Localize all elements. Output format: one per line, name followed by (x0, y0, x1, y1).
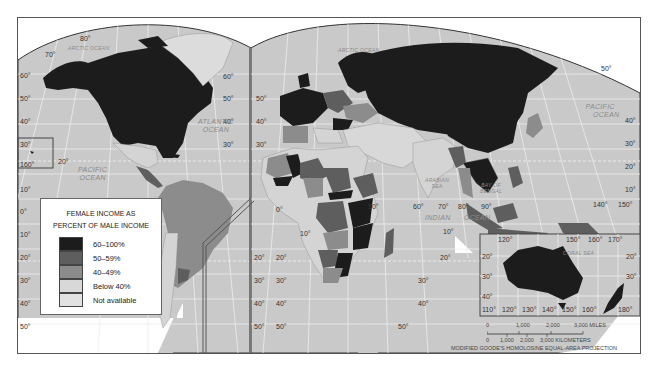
lat-label: 50° (20, 95, 31, 102)
pacific-ocean-label-left: PACIFIC OCEAN (78, 166, 107, 182)
legend-item-below-40: Below 40% (59, 279, 131, 293)
lat-label: 10° (443, 228, 454, 235)
lat-label: 10° (20, 186, 31, 193)
lat-label: 80° (80, 35, 91, 42)
inset-lon-label: 180° (618, 306, 632, 313)
lat-label: 50° (398, 323, 409, 330)
lat-label: 60° (223, 73, 234, 80)
legend-item-50-59: 50–59% (59, 251, 121, 265)
lat-label: 10° (20, 231, 31, 238)
bay-of-bengal-label: BAY OF BENGAL (480, 183, 502, 195)
inset-lon-label: 170° (608, 236, 622, 243)
lat-label: 30° (20, 141, 31, 148)
inset-lon-label: 140° (542, 306, 556, 313)
arctic-ocean-label-right: ARCTIC OCEAN (338, 48, 379, 54)
lat-label: 30° (276, 277, 287, 284)
lon-label: 80° (458, 203, 469, 210)
inset-lon-label: 160° (582, 306, 596, 313)
lat-label: 40° (254, 300, 265, 307)
inset-lon-label: 150° (562, 306, 576, 313)
lat-label: 20° (440, 254, 451, 261)
inset-lat-label: 20° (482, 253, 493, 260)
inset-lat-label: 40° (482, 293, 493, 300)
lat-label: 50° (256, 95, 267, 102)
lat-label: 40° (256, 118, 267, 125)
arctic-ocean-label-left: ARCTIC OCEAN (68, 46, 109, 52)
inset-lat-label: 20° (626, 253, 637, 260)
lat-label: 40° (625, 117, 636, 124)
legend-item-not-available: Not available (59, 293, 136, 307)
lat-label: 60° (20, 72, 31, 79)
lat-label: 50° (601, 65, 612, 72)
lat-label: 0° (20, 208, 27, 215)
lat-label: 30° (254, 277, 265, 284)
map-legend: FEMALE INCOME AS PERCENT OF MALE INCOME … (40, 198, 162, 315)
hawaii-lat-label: 20° (58, 158, 69, 165)
inset-lon-label: 160° (588, 236, 602, 243)
lat-label: 20° (625, 163, 636, 170)
hawaii-lon-label: 160° (20, 161, 34, 168)
indian-ocean-label: INDIAN OCEAN (425, 214, 490, 222)
legend-swatch (59, 237, 83, 251)
pacific-ocean-label-right: PACIFIC OCEAN (581, 103, 619, 119)
inset-lon-label: 130° (522, 306, 536, 313)
lat-label: 30° (223, 141, 234, 148)
lat-label: 20° (20, 254, 31, 261)
legend-swatch (59, 279, 83, 293)
lat-label: 30° (256, 141, 267, 148)
africa-lat-label: 0° (276, 206, 283, 213)
lat-label: 20° (276, 254, 287, 261)
lat-label: 40° (20, 300, 31, 307)
inset-lat-label: 30° (626, 273, 637, 280)
lat-label: 50° (276, 323, 287, 330)
lat-label: 30° (20, 277, 31, 284)
lat-label: 40° (276, 300, 287, 307)
africa-lat-label: 10° (300, 230, 311, 237)
inset-lon-label: 120° (498, 236, 512, 243)
lat-label: 50° (254, 323, 265, 330)
lon-label: 140° (593, 201, 607, 208)
legend-item-40-49: 40–49% (59, 265, 121, 279)
lat-label: 40° (20, 118, 31, 125)
coral-sea-label: CORAL SEA (563, 251, 594, 257)
lat-label: 50° (20, 323, 31, 330)
lat-label: 30° (418, 277, 429, 284)
projection-label: MODIFIED GOODE'S HOMOLOSINE EQUAL-AREA P… (451, 345, 617, 351)
lon-label: 150° (618, 201, 632, 208)
lon-label: 70° (438, 203, 449, 210)
legend-swatch (59, 265, 83, 279)
legend-title: FEMALE INCOME AS PERCENT OF MALE INCOME (41, 208, 161, 232)
inset-lon-label: 110° (482, 306, 496, 313)
lat-label: 10° (625, 186, 636, 193)
legend-swatch (59, 293, 83, 307)
lat-label: 20° (254, 254, 265, 261)
lon-label: 90° (481, 203, 492, 210)
arabian-sea-label: ARABIAN SEA (425, 178, 449, 190)
lon-label: 50° (368, 203, 379, 210)
legend-swatch (59, 251, 83, 265)
lat-label: 50° (223, 95, 234, 102)
lat-label: 40° (418, 300, 429, 307)
inset-lat-label: 30° (482, 273, 493, 280)
lat-label: 70° (45, 51, 56, 58)
lat-label: 30° (625, 140, 636, 147)
inset-lon-label: 120° (502, 306, 516, 313)
inset-lon-label: 150° (566, 236, 580, 243)
lon-label: 60° (413, 203, 424, 210)
atlantic-ocean-label: ATLANTIC OCEAN (198, 118, 234, 134)
legend-item-60-100: 60–100% (59, 237, 125, 251)
